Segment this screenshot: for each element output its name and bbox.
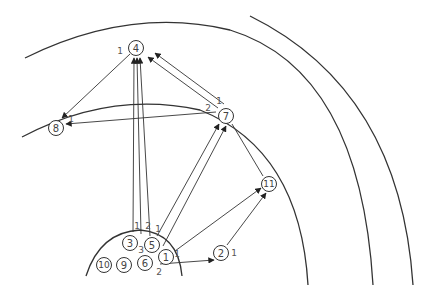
node-label: 9 bbox=[121, 260, 127, 271]
node-label: 3 bbox=[127, 238, 133, 249]
edge-label: 1 bbox=[231, 248, 237, 258]
node-6[interactable]: 6 bbox=[138, 256, 153, 271]
edge-7-4-b bbox=[155, 53, 224, 104]
edge-5-4-a bbox=[137, 58, 141, 234]
edge-label: 1 bbox=[117, 46, 123, 56]
node-label: 2 bbox=[218, 248, 224, 259]
edge-label: 1 bbox=[174, 249, 180, 259]
edge-label: 2 bbox=[205, 103, 211, 113]
node-label: 8 bbox=[53, 123, 59, 134]
edge-label: 1 bbox=[216, 96, 222, 106]
edge-label: 3 bbox=[138, 245, 144, 255]
edge-1-7 bbox=[163, 126, 226, 246]
edge-label: 1 bbox=[68, 114, 74, 124]
node-9[interactable]: 9 bbox=[117, 258, 132, 273]
edge-label: 1 bbox=[155, 224, 161, 234]
edge-7-8 bbox=[66, 112, 216, 124]
node-label: 1 bbox=[163, 252, 169, 263]
node-label: 10 bbox=[98, 260, 110, 270]
upper-arc bbox=[25, 22, 373, 285]
edge-4-8 bbox=[62, 54, 130, 118]
node-label: 7 bbox=[223, 111, 229, 122]
node-label: 6 bbox=[142, 258, 148, 269]
edge-2-11 bbox=[227, 193, 266, 245]
outer-arc bbox=[250, 16, 413, 285]
node-3[interactable]: 3 bbox=[123, 236, 138, 251]
node-label: 5 bbox=[149, 240, 155, 251]
edge-1-11 bbox=[175, 188, 261, 251]
node-2[interactable]: 2 bbox=[214, 246, 229, 261]
edge-label: 2 bbox=[156, 267, 162, 277]
node-label: 11 bbox=[263, 179, 274, 189]
edge-5-7 bbox=[157, 124, 219, 236]
edge-label: 1 bbox=[134, 221, 140, 231]
node-8[interactable]: 8 bbox=[49, 121, 64, 136]
node-7[interactable]: 7 bbox=[219, 109, 234, 124]
edge-7-4-a bbox=[148, 57, 218, 108]
network-diagram: 1 1 1 2 1 2 1 1 1 2 3 4 7 8 11 3 5 6 bbox=[0, 0, 437, 297]
node-5[interactable]: 5 bbox=[145, 238, 160, 253]
node-4[interactable]: 4 bbox=[129, 41, 144, 56]
node-label: 4 bbox=[133, 43, 139, 54]
edge-3-4 bbox=[133, 58, 134, 232]
edges bbox=[62, 53, 266, 264]
node-10[interactable]: 10 bbox=[97, 258, 112, 273]
edge-label: 2 bbox=[145, 221, 151, 231]
node-11[interactable]: 11 bbox=[262, 177, 277, 192]
edge-5-4-b bbox=[140, 58, 150, 236]
node-1[interactable]: 1 bbox=[159, 250, 174, 265]
